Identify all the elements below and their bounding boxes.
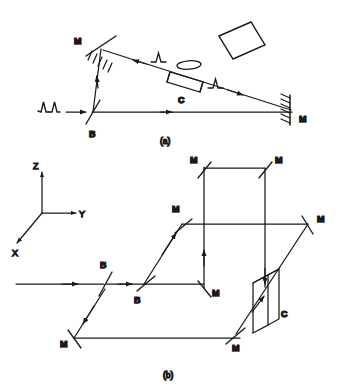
beam-diagonal-arrow-2: [228, 90, 243, 95]
label-mirror-right-a: M: [299, 114, 307, 124]
mirror-mid-left[interactable]: [175, 219, 192, 233]
label-cell-b: C: [281, 309, 288, 319]
beam-b2-midleft-arrow: [162, 233, 176, 255]
label-beamsplitter-a: B: [89, 129, 96, 139]
lens-icon: [177, 60, 202, 70]
beam-b1-downleft-arrow: [83, 306, 94, 324]
optics-diagram-svg: M M B C (a) Z Y X B B M: [0, 0, 347, 387]
pulse-marker-1: [151, 53, 166, 62]
pulse-marker-2: [208, 79, 223, 88]
label-mirror-upper-right: M: [275, 155, 283, 165]
label-mirror-top-left-a: M: [74, 36, 82, 46]
mirror-bottom-left[interactable]: [68, 330, 81, 348]
label-mirror-mid-right: M: [317, 214, 325, 224]
caption-panel-b: (b): [163, 370, 174, 380]
label-cell-a: C: [178, 95, 185, 105]
label-mirror-bottom-right: M: [232, 343, 240, 353]
beam-bottomright-to-right-mirror: [236, 224, 308, 334]
label-beamsplitter-b1: B: [100, 260, 107, 270]
label-mirror-bottom-left: M: [60, 339, 68, 349]
axis-x: [17, 213, 42, 243]
input-pulse-train-icon: [38, 102, 60, 112]
label-mirror-upper-left: M: [190, 155, 198, 165]
caption-panel-a: (a): [160, 136, 171, 146]
mirror-bottom-right[interactable]: [226, 328, 245, 344]
beam-cell-diagonal-arrow: [252, 296, 264, 312]
mirror-top-left-a[interactable]: [86, 36, 116, 72]
beam-diagonal-arrow-1: [133, 60, 146, 64]
detector-screen: [219, 22, 265, 59]
label-mirror-mid-left: M: [172, 204, 180, 214]
label-axis-z: Z: [33, 161, 39, 171]
label-beamsplitter-b2: B: [134, 295, 141, 305]
panel-b-group: Z Y X B B M M M M: [12, 155, 325, 380]
label-mirror-lower-mid: M: [212, 288, 220, 298]
label-axis-y: Y: [79, 209, 85, 219]
coordinate-axes: [17, 172, 76, 243]
figure-container: M M B C (a) Z Y X B B M: [0, 0, 347, 387]
label-axis-x: X: [12, 248, 18, 258]
panel-a-group: M M B C (a): [38, 22, 307, 146]
sample-cell-c-a[interactable]: [167, 72, 203, 92]
